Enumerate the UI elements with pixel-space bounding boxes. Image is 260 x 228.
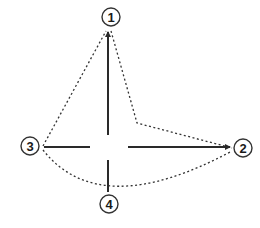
dotted-path-1-to-2 (111, 31, 232, 148)
node-3: 3 (21, 137, 39, 155)
node-1-label: 1 (107, 10, 114, 25)
node-1: 1 (102, 8, 120, 26)
dotted-path-3-to-1 (43, 31, 106, 146)
node-3-label: 3 (26, 139, 33, 154)
dotted-path-3-to-2-curve (43, 150, 232, 186)
stroke-diagram: 1 2 3 4 (0, 0, 260, 228)
node-4-label: 4 (105, 197, 113, 212)
node-2-label: 2 (239, 141, 246, 156)
node-4: 4 (100, 195, 118, 213)
node-2: 2 (234, 139, 252, 157)
